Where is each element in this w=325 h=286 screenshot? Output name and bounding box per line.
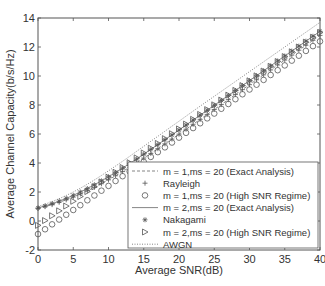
x-tick-label: 30 <box>243 253 255 265</box>
y-tick-label: 0 <box>29 215 35 227</box>
legend-label: Nakagami <box>163 214 206 225</box>
y-tick-label: 2 <box>29 186 35 198</box>
legend-label: Rayleigh <box>163 178 200 189</box>
y-tick-label: 12 <box>23 41 35 53</box>
y-tick-label: 4 <box>29 157 35 169</box>
y-tick-label: -2 <box>25 244 35 256</box>
legend-item: m = 2,ms = 20 (High SNR Regime) <box>143 227 311 238</box>
legend-label: m = 2,ms = 20 (High SNR Regime) <box>163 227 310 238</box>
x-tick-label: 0 <box>35 253 41 265</box>
legend-label: m = 1,ms = 20 (Exact Analysis) <box>163 166 294 177</box>
capacity-chart: 0510152025303540-202468101214 Average SN… <box>0 0 325 286</box>
legend: m = 1,ms = 20 (Exact Analysis)Rayleighm … <box>128 162 318 250</box>
x-axis-label: Average SNR(dB) <box>135 264 223 276</box>
legend-item: m = 1,ms = 20 (High SNR Regime) <box>142 190 310 201</box>
y-tick-label: 6 <box>29 128 35 140</box>
legend-label: AWGN <box>163 239 192 250</box>
x-tick-label: 35 <box>279 253 291 265</box>
x-tick-label: 5 <box>70 253 76 265</box>
legend-label: m = 2,ms = 20 (Exact Analysis) <box>163 202 294 213</box>
x-tick-label: 40 <box>314 253 325 265</box>
y-axis-label: Average Channel Capacity(b/s/Hz) <box>4 49 16 218</box>
x-tick-label: 10 <box>102 253 114 265</box>
y-tick-label: 14 <box>23 12 35 24</box>
y-tick-label: 10 <box>23 70 35 82</box>
y-tick-label: 8 <box>29 99 35 111</box>
legend-label: m = 1,ms = 20 (High SNR Regime) <box>163 190 310 201</box>
